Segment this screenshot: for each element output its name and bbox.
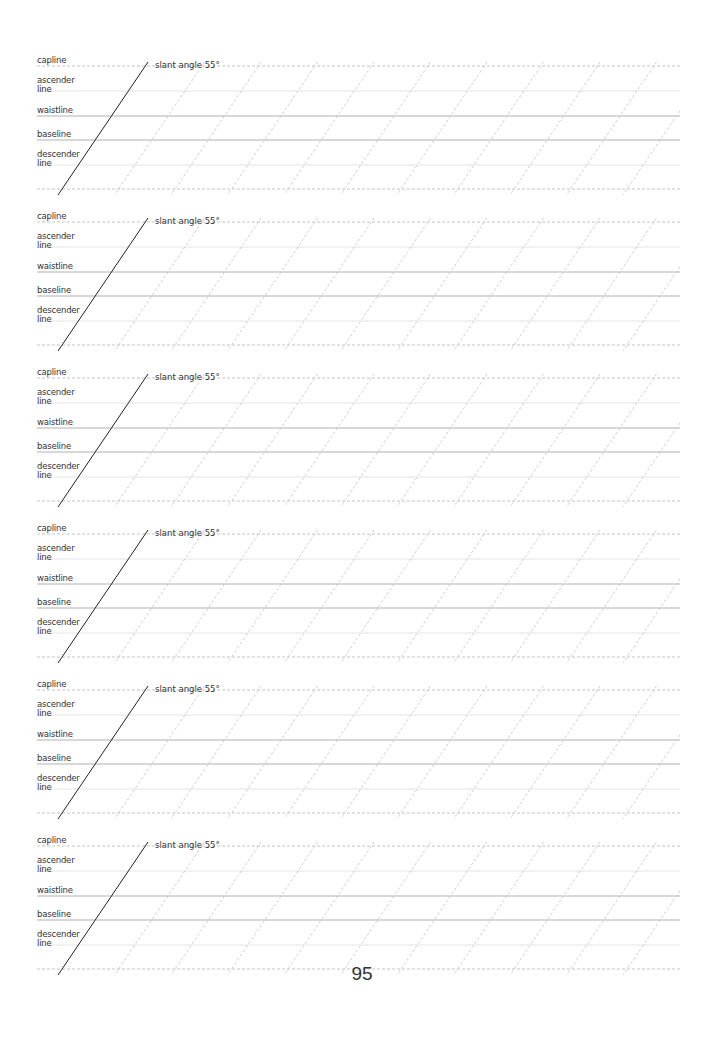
slant-guide-line: [284, 62, 374, 195]
slant-guide-line: [284, 218, 374, 351]
slant-guide-line: [510, 530, 600, 663]
waistline-label: waistline: [37, 418, 73, 427]
slant-guide-line: [341, 218, 431, 351]
baseline-label: baseline: [37, 598, 71, 607]
slant-angle-label: slant angle 55°: [155, 60, 220, 70]
slant-guide-line: [510, 62, 600, 195]
guide-lines: [0, 690, 724, 850]
waistline-label: waistline: [37, 886, 73, 895]
slant-guide-line: [284, 530, 374, 663]
guide-lines: [0, 534, 724, 694]
slant-guide-line: [171, 374, 261, 507]
slant-guide-line: [567, 62, 657, 195]
slant-guide-line: [623, 267, 680, 351]
descender-line-label: descender line: [37, 306, 87, 323]
slant-angle-label: slant angle 55°: [155, 840, 220, 850]
slant-guide-line: [454, 530, 544, 663]
slant-guide-line: [397, 842, 487, 975]
slant-guide-line: [623, 423, 680, 507]
slant-angle-label: slant angle 55°: [155, 684, 220, 694]
slant-guide-line: [228, 686, 318, 819]
slant-guide-line: [115, 374, 205, 507]
slant-guide-line: [341, 62, 431, 195]
slant-guide-line: [171, 218, 261, 351]
slant-guide-line: [115, 842, 205, 975]
slant-guide-line: [454, 62, 544, 195]
slant-guide-line: [115, 686, 205, 819]
slant-guide-line: [284, 842, 374, 975]
capline-label: capline: [37, 524, 66, 533]
baseline-label: baseline: [37, 910, 71, 919]
slant-angle-label: slant angle 55°: [155, 528, 220, 538]
guide-lines: [0, 378, 724, 538]
slant-guide-line: [228, 530, 318, 663]
descender-line-label: descender line: [37, 930, 87, 947]
slant-guide-line: [228, 62, 318, 195]
slant-guide-line: [171, 62, 261, 195]
ascender-line-label: ascender line: [37, 388, 87, 405]
ascender-line-label: ascender line: [37, 76, 87, 93]
practice-block-5: capline ascender line waistline baseline…: [0, 690, 724, 846]
slant-guide-line: [284, 374, 374, 507]
slant-guide-line: [623, 111, 680, 195]
page-number: 95: [0, 963, 724, 985]
waistline-label: waistline: [37, 262, 73, 271]
slant-guide-line: [228, 842, 318, 975]
slant-guide-line: [341, 686, 431, 819]
ascender-line-label: ascender line: [37, 232, 87, 249]
descender-line-label: descender line: [37, 150, 87, 167]
slant-guide-line: [228, 374, 318, 507]
slant-guide-line: [397, 686, 487, 819]
slant-guide-line: [115, 218, 205, 351]
slant-guide-line: [397, 62, 487, 195]
ascender-line-label: ascender line: [37, 700, 87, 717]
guide-lines: [0, 66, 724, 226]
slant-guide-line: [341, 842, 431, 975]
baseline-label: baseline: [37, 130, 71, 139]
slant-guide-line: [510, 218, 600, 351]
waistline-label: waistline: [37, 574, 73, 583]
slant-guide-line: [454, 686, 544, 819]
slant-guide-line: [454, 842, 544, 975]
slant-guide-line: [510, 686, 600, 819]
slant-guide-line: [567, 530, 657, 663]
practice-block-1: capline ascender line waistline baseline…: [0, 66, 724, 222]
baseline-label: baseline: [37, 442, 71, 451]
descender-line-label: descender line: [37, 774, 87, 791]
slant-guide-line: [623, 579, 680, 663]
slant-guide-line: [567, 686, 657, 819]
practice-block-3: capline ascender line waistline baseline…: [0, 378, 724, 534]
baseline-label: baseline: [37, 286, 71, 295]
slant-guide-line: [454, 374, 544, 507]
descender-line-label: descender line: [37, 462, 87, 479]
slant-guide-line: [228, 218, 318, 351]
lettering-practice-sheet: capline ascender line waistline baseline…: [0, 0, 724, 1045]
slant-guide-line: [397, 530, 487, 663]
capline-label: capline: [37, 368, 66, 377]
practice-block-4: capline ascender line waistline baseline…: [0, 534, 724, 690]
capline-label: capline: [37, 212, 66, 221]
guide-lines: [0, 222, 724, 382]
slant-angle-label: slant angle 55°: [155, 216, 220, 226]
slant-guide-line: [341, 530, 431, 663]
slant-guide-line: [567, 842, 657, 975]
capline-label: capline: [37, 680, 66, 689]
slant-angle-label: slant angle 55°: [155, 372, 220, 382]
slant-guide-line: [171, 530, 261, 663]
capline-label: capline: [37, 56, 66, 65]
slant-guide-line: [284, 686, 374, 819]
slant-guide-line: [115, 62, 205, 195]
slant-guide-line: [510, 842, 600, 975]
slant-guide-line: [397, 374, 487, 507]
slant-guide-line: [567, 374, 657, 507]
ascender-line-label: ascender line: [37, 544, 87, 561]
slant-guide-line: [567, 218, 657, 351]
waistline-label: waistline: [37, 106, 73, 115]
slant-guide-line: [171, 842, 261, 975]
slant-guide-line: [171, 686, 261, 819]
waistline-label: waistline: [37, 730, 73, 739]
slant-guide-line: [341, 374, 431, 507]
slant-guide-line: [454, 218, 544, 351]
slant-guide-line: [115, 530, 205, 663]
capline-label: capline: [37, 836, 66, 845]
